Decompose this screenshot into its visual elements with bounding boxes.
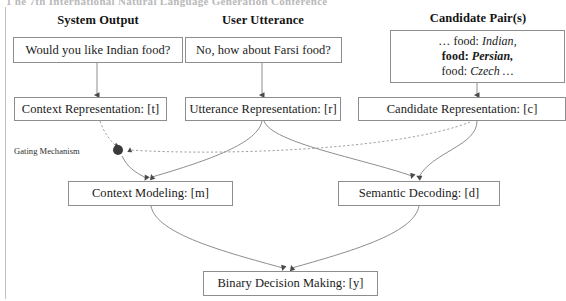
candidate-line-2: food: Persian, xyxy=(399,49,556,64)
edge-candidate-representation-to-gating-dashed xyxy=(130,122,470,152)
node-context-representation: Context Representation: [t] xyxy=(14,97,167,121)
edge-utterance-representation-to-context-modeling xyxy=(152,121,262,177)
candidate-prefix-1: … food: xyxy=(438,34,482,48)
candidate-value-3: Czech … xyxy=(470,64,513,78)
cropped-page-header: 1 he 7th International Natural Language … xyxy=(0,0,566,8)
node-candidate-representation: Candidate Representation: [c] xyxy=(358,97,566,121)
edge-semantic-decoding-to-binary-decision xyxy=(292,206,419,268)
node-candidate-pairs: … food: Indian, food: Persian, food: Cze… xyxy=(390,30,565,83)
candidate-value-2: Persian, xyxy=(472,49,513,63)
page-margin-rule xyxy=(5,7,6,299)
node-system-output: Would you like Indian food? xyxy=(13,37,183,63)
gating-mechanism-label: Gating Mechanism xyxy=(14,146,80,156)
candidate-prefix-2: food: xyxy=(442,49,472,63)
node-binary-decision-making: Binary Decision Making: [y] xyxy=(203,271,378,296)
candidate-line-1: … food: Indian, xyxy=(399,34,556,49)
candidate-value-1: Indian, xyxy=(482,34,517,48)
column-header-user-utterance: User Utterance xyxy=(183,13,343,28)
column-header-candidate-pairs: Candidate Pair(s) xyxy=(390,11,566,26)
diagram-canvas: 1 he 7th International Natural Language … xyxy=(0,0,566,301)
node-semantic-decoding: Semantic Decoding: [d] xyxy=(338,181,500,206)
candidate-line-3: food: Czech … xyxy=(399,64,556,79)
node-context-modeling: Context Modeling: [m] xyxy=(68,181,233,206)
edge-gating-to-context-modeling xyxy=(122,156,146,178)
edge-candidate-representation-to-semantic-decoding xyxy=(419,121,477,177)
candidate-prefix-3: food: xyxy=(442,64,471,78)
node-utterance-representation: Utterance Representation: [r] xyxy=(185,97,341,121)
edge-context-modeling-to-binary-decision xyxy=(151,206,283,268)
column-header-system-output: System Output xyxy=(13,13,183,28)
gating-mechanism-node xyxy=(113,145,123,155)
edge-utterance-representation-to-semantic-decoding xyxy=(264,121,412,176)
node-user-utterance: No, how about Farsi food? xyxy=(185,37,342,63)
edge-context-representation-to-gating-dashed xyxy=(100,121,116,146)
